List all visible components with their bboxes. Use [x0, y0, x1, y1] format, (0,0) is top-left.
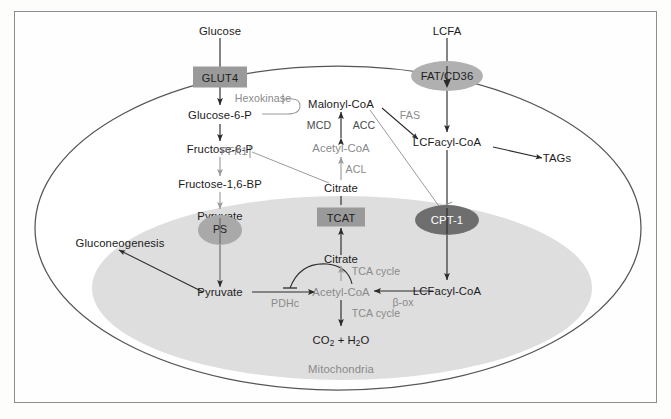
label-acetyl-coa-mito: Acetyl-CoA [312, 286, 370, 298]
enzyme-hexokinase: Hexokinase [235, 93, 291, 105]
transporter-ps-label[interactable]: PS [213, 224, 227, 236]
label-tags: TAGs [543, 152, 571, 164]
label-lcfa: LCFA [433, 25, 462, 37]
label-pyruvate-cytosol: Pyruvate [197, 210, 242, 222]
label-fructose-1-6-bp: Fructose-1,6-BP [178, 178, 262, 190]
enzyme-beta-ox: β-ox [392, 297, 413, 309]
enzyme-acl: ACL [346, 164, 367, 176]
enzyme-fas: FAS [400, 110, 420, 122]
pathway-figure: Glucose LCFA GLUT4 Hexokinase Glucose-6-… [0, 0, 671, 419]
transporter-tcat[interactable]: TCAT [317, 208, 365, 227]
label-glucose-6-p: Glucose-6-P [188, 109, 252, 121]
h2o-mid: + H [334, 334, 355, 346]
h2o-suffix: O [361, 334, 370, 346]
label-malonyl-coa: Malonyl-CoA [308, 98, 374, 110]
label-lcfacyl-coa-mito: LCFacyl-CoA [413, 285, 481, 297]
label-pyruvate-mito: Pyruvate [197, 286, 242, 298]
enzyme-tca-cycle-upper: TCA cycle [352, 266, 401, 278]
transporter-cpt1-label[interactable]: CPT-1 [431, 214, 464, 226]
enzyme-mcd: MCD [307, 120, 331, 132]
label-glucose: Glucose [199, 25, 241, 37]
enzyme-acc: ACC [353, 120, 376, 132]
transporter-fatcd36-label[interactable]: FAT/CD36 [421, 70, 474, 82]
label-citrate-mito: Citrate [324, 253, 358, 265]
transporter-glut4[interactable]: GLUT4 [193, 67, 247, 88]
label-citrate-cytosol: Citrate [324, 182, 358, 194]
label-gluconeogenesis: Gluconeogenesis [76, 237, 165, 249]
label-co2-h2o: CO2 + H2O [313, 334, 370, 348]
co2-prefix: CO [313, 334, 330, 346]
enzyme-pdhc: PDHc [271, 298, 299, 310]
label-mitochondria: Mitochondria [308, 363, 374, 375]
enzyme-pfk1: PFK1 [221, 146, 248, 158]
label-acetyl-coa-cytosol: Acetyl-CoA [312, 142, 370, 154]
label-lcfacyl-coa-cytosol: LCFacyl-CoA [413, 136, 481, 148]
enzyme-tca-cycle-lower: TCA cycle [352, 308, 401, 320]
